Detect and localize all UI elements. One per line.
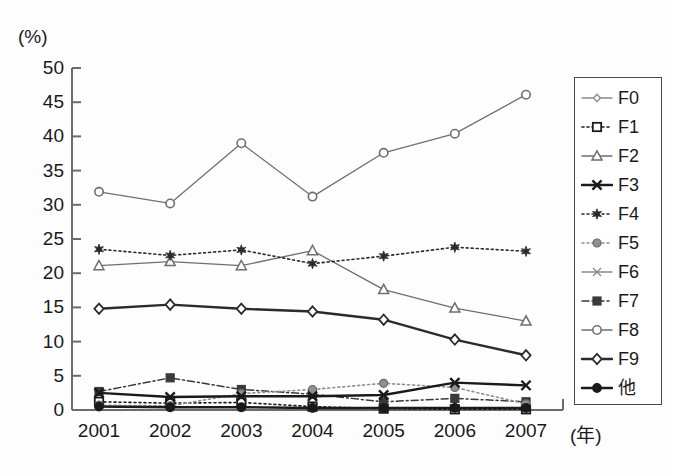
chart-legend: F0F1F2F3F4F5F6F7F8F9他 bbox=[574, 77, 662, 405]
y-tick-label: 35 bbox=[26, 160, 64, 182]
y-tick-label: 30 bbox=[26, 194, 64, 216]
x-tick-label: 2001 bbox=[64, 420, 134, 442]
line-chart-plot bbox=[0, 0, 673, 476]
y-tick-label: 40 bbox=[26, 125, 64, 147]
legend-item-F7[interactable]: F7 bbox=[575, 286, 661, 315]
y-tick-label: 10 bbox=[26, 331, 64, 353]
x-tick-label: 2003 bbox=[206, 420, 276, 442]
series-F9 bbox=[94, 299, 530, 360]
legend-marker-open-diamond-small-icon bbox=[580, 89, 614, 107]
x-tick-label: 2006 bbox=[420, 420, 490, 442]
legend-item-F3[interactable]: F3 bbox=[575, 170, 661, 199]
legend-label: F9 bbox=[618, 350, 639, 368]
legend-marker-filled-square-icon bbox=[580, 292, 614, 310]
legend-label: F3 bbox=[618, 176, 639, 194]
legend-label: F8 bbox=[618, 321, 639, 339]
legend-label: F2 bbox=[618, 147, 639, 165]
legend-marker-star-icon bbox=[580, 205, 614, 223]
legend-item-F5[interactable]: F5 bbox=[575, 228, 661, 257]
legend-item-F0[interactable]: F0 bbox=[575, 83, 661, 112]
legend-marker-filled-circle-gray-icon bbox=[580, 234, 614, 252]
legend-marker-open-square-icon bbox=[580, 118, 614, 136]
legend-label: 他 bbox=[618, 379, 636, 397]
legend-item-F1[interactable]: F1 bbox=[575, 112, 661, 141]
x-tick-label: 2002 bbox=[135, 420, 205, 442]
legend-label: F7 bbox=[618, 292, 639, 310]
legend-label: F5 bbox=[618, 234, 639, 252]
legend-item-F8[interactable]: F8 bbox=[575, 315, 661, 344]
legend-marker-x-cross-icon bbox=[580, 176, 614, 194]
x-tick-label: 2007 bbox=[491, 420, 561, 442]
y-tick-label: 25 bbox=[26, 228, 64, 250]
chart-axes bbox=[72, 68, 563, 410]
legend-label: F6 bbox=[618, 263, 639, 281]
y-tick-label: 5 bbox=[26, 365, 64, 387]
legend-label: F4 bbox=[618, 205, 639, 223]
legend-marker-open-diamond-icon bbox=[580, 350, 614, 368]
series-F8 bbox=[95, 90, 530, 207]
legend-marker-open-circle-icon bbox=[580, 321, 614, 339]
legend-label: F1 bbox=[618, 118, 639, 136]
y-tick-label: 45 bbox=[26, 91, 64, 113]
legend-item-F9[interactable]: F9 bbox=[575, 344, 661, 373]
legend-item-F2[interactable]: F2 bbox=[575, 141, 661, 170]
legend-marker-open-triangle-icon bbox=[580, 147, 614, 165]
x-axis-unit-label: (年) bbox=[570, 420, 602, 447]
legend-item-F4[interactable]: F4 bbox=[575, 199, 661, 228]
y-tick-label: 15 bbox=[26, 296, 64, 318]
legend-label: F0 bbox=[618, 89, 639, 107]
legend-marker-filled-circle-icon bbox=[580, 379, 614, 397]
x-tick-label: 2004 bbox=[278, 420, 348, 442]
legend-item-他[interactable]: 他 bbox=[575, 373, 661, 402]
legend-marker-x-cross-thin-icon bbox=[580, 263, 614, 281]
y-tick-label: 20 bbox=[26, 262, 64, 284]
chart-figure: (%) 05101520253035404550 200120022003200… bbox=[0, 0, 673, 476]
legend-item-F6[interactable]: F6 bbox=[575, 257, 661, 286]
y-tick-label: 50 bbox=[26, 57, 64, 79]
y-tick-label: 0 bbox=[26, 399, 64, 421]
x-tick-label: 2005 bbox=[349, 420, 419, 442]
